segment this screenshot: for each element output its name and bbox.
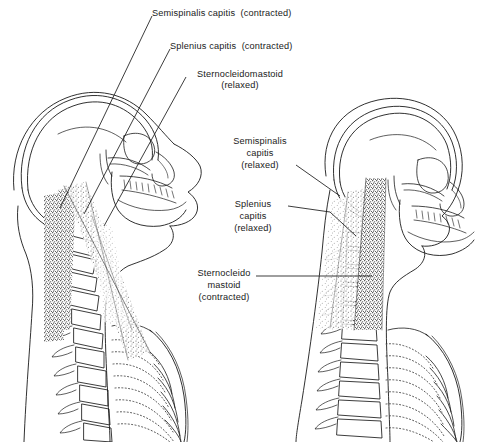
label-splenius-relaxed-line1: Splenius — [218, 199, 288, 211]
label-splenius-capitis-contracted: Splenius capitis (contracted) — [170, 41, 292, 53]
label-splenius-relaxed-line2: capitis — [218, 211, 288, 223]
label-sternocleidomastoid-contracted-line1: Sternocleido — [190, 268, 258, 280]
label-sternocleidomastoid-contracted-line3: (contracted) — [190, 292, 258, 304]
label-semispinalis-relaxed-line2: capitis — [224, 148, 296, 160]
label-semispinalis-capitis-contracted: Semispinalis capitis (contracted) — [152, 8, 291, 20]
label-sternocleidomastoid-relaxed-line1: Sternocleidomastoid — [180, 69, 300, 81]
label-semispinalis-relaxed-line3: (relaxed) — [224, 160, 296, 172]
illustration-canvas: Semispinalis capitis (contracted) Spleni… — [0, 0, 488, 442]
label-sternocleidomastoid-contracted-line2: mastoid — [190, 280, 258, 292]
label-splenius-relaxed-line3: (relaxed) — [218, 223, 288, 235]
label-semispinalis-relaxed-line1: Semispinalis — [224, 136, 296, 148]
label-sternocleidomastoid-relaxed-line2: (relaxed) — [180, 80, 300, 92]
